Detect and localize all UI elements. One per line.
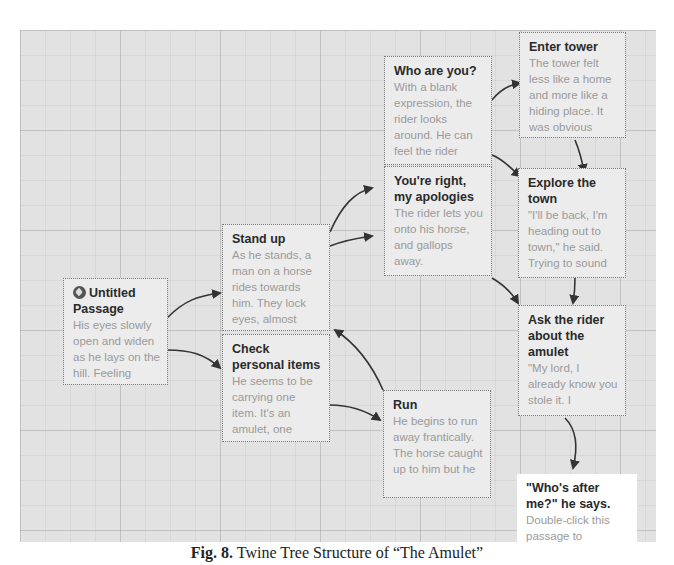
passage-title: Run <box>393 397 483 413</box>
passage-title: Check personal items <box>232 341 322 373</box>
rocket-start-icon <box>73 286 86 299</box>
passage-title: Explore the town <box>528 175 618 207</box>
passage-untitled[interactable]: Untitled Passage His eyes slowly open an… <box>63 278 168 385</box>
passage-youre-right[interactable]: You're right, my apologies The rider let… <box>384 166 492 276</box>
passage-excerpt: "My lord, I already know you stole it. I <box>528 360 618 408</box>
figure-caption: Fig. 8. Twine Tree Structure of “The Amu… <box>0 544 674 562</box>
passage-title: Ask the rider about the amulet <box>528 312 618 360</box>
passage-excerpt: With a blank expression, the rider looks… <box>394 79 484 159</box>
passage-check-personal-items[interactable]: Check personal items He seems to be carr… <box>222 334 330 442</box>
passage-excerpt: His eyes slowly open and widen as he lay… <box>73 317 160 381</box>
passage-excerpt: He seems to be carrying one item. It's a… <box>232 373 322 437</box>
passage-title: Stand up <box>232 231 322 247</box>
passage-excerpt: He begins to run away frantically. The h… <box>393 413 483 477</box>
passage-stand-up[interactable]: Stand up As he stands, a man on a horse … <box>222 224 330 331</box>
figure-caption-text: Twine Tree Structure of “The Amulet” <box>237 544 483 561</box>
passage-title: Enter tower <box>529 39 618 55</box>
passage-who-are-you[interactable]: Who are you? With a blank expression, th… <box>384 56 492 165</box>
passage-title: Untitled Passage <box>73 285 160 317</box>
passage-title: Who are you? <box>394 63 484 79</box>
passage-excerpt: The tower felt less like a home and more… <box>529 55 618 135</box>
passage-excerpt: The rider lets you onto his horse, and g… <box>394 205 484 269</box>
passage-excerpt: "I'll be back, I'm heading out to town,"… <box>528 207 618 271</box>
passage-run[interactable]: Run He begins to run away frantically. T… <box>383 390 491 498</box>
passage-title: You're right, my apologies <box>394 173 484 205</box>
passage-excerpt: As he stands, a man on a horse rides tow… <box>232 247 322 327</box>
passage-whos-after-me[interactable]: "Who's after me?" he says. Double-click … <box>517 474 637 542</box>
passage-enter-tower[interactable]: Enter tower The tower felt less like a h… <box>519 32 626 138</box>
passage-title: "Who's after me?" he says. <box>526 480 630 512</box>
passage-excerpt: Double-click this passage to <box>526 512 630 542</box>
figure-label: Fig. 8. <box>191 544 233 561</box>
passage-ask-the-rider[interactable]: Ask the rider about the amulet "My lord,… <box>518 305 626 416</box>
passage-explore-the-town[interactable]: Explore the town "I'll be back, I'm head… <box>518 168 626 278</box>
